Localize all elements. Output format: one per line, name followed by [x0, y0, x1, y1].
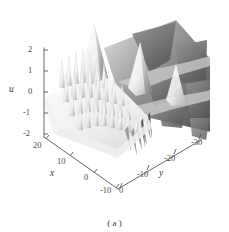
u-axis-tick-neg1: -1 — [23, 108, 30, 117]
x-axis-tick-10: 10 — [57, 157, 66, 166]
surface-plot-canvas — [0, 0, 229, 232]
u-axis-tick-1: 1 — [28, 66, 32, 75]
y-axis-tick-neg30: -30 — [191, 138, 202, 147]
y-axis-tick-neg10: -10 — [137, 170, 148, 179]
y-axis-title: y — [159, 168, 163, 178]
y-axis-tick-neg20: -20 — [164, 154, 175, 163]
x-axis-tick-0: 0 — [84, 173, 88, 182]
u-axis-title: u — [9, 84, 14, 94]
u-axis-tick-2: 2 — [28, 45, 32, 54]
u-axis-tick-neg2: -2 — [23, 129, 30, 138]
x-axis-title: x — [50, 168, 54, 178]
u-axis-tick-0: 0 — [28, 87, 32, 96]
x-axis-tick-neg10: -10 — [100, 186, 111, 195]
surface-mesh — [44, 20, 211, 158]
x-axis-tick-20: 20 — [33, 141, 42, 150]
u-axis-ticks — [44, 50, 48, 134]
figure-3d-surface-plot: u 2 1 0 -1 -2 x 20 10 0 -10 y 0 -10 -20 … — [0, 0, 229, 232]
y-axis-tick-0: 0 — [119, 186, 123, 195]
figure-caption: ( a ) — [0, 218, 229, 228]
